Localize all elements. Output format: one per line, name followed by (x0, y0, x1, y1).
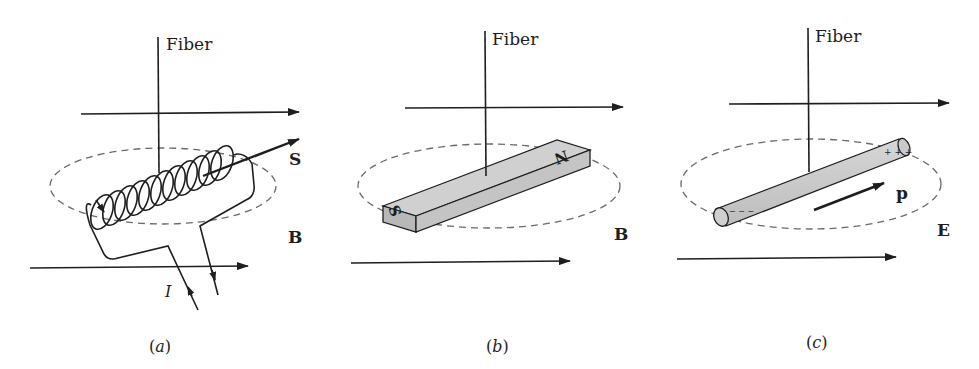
moment-vector-s (203, 139, 299, 176)
solenoid-coil (86, 143, 237, 233)
fiber-line (158, 37, 159, 173)
panel-b: S N Fiber B (b) (351, 29, 628, 356)
fiber-label: Fiber (492, 29, 539, 49)
field-label-b: B (288, 227, 302, 247)
coil-current-arrow (96, 200, 104, 212)
dipole-moment-label-p: p (896, 183, 908, 203)
panel-a: Fiber S B I (a) (30, 34, 302, 356)
fiber-label: Fiber (166, 34, 213, 54)
negative-charges: − − − (729, 207, 754, 216)
field-label-e: E (937, 220, 950, 240)
field-line-arrow (30, 266, 248, 268)
figure-canvas: Fiber S B I (a) S N Fiber B (b) (0, 0, 979, 369)
panel-caption-a: (a) (149, 337, 171, 356)
positive-charges: + + + (884, 147, 912, 157)
field-label-b: B (614, 224, 628, 244)
fiber-line (485, 31, 486, 176)
field-line-arrow (729, 103, 949, 104)
panel-c: + + + − − − Fiber p E (c) (677, 26, 950, 352)
fiber-line (808, 28, 809, 172)
panel-caption-c: (c) (806, 333, 827, 352)
moment-label-s: S (289, 149, 301, 169)
field-line-arrow (677, 257, 896, 259)
field-line-arrow (405, 107, 623, 108)
current-label-i: I (164, 282, 172, 301)
fiber-label: Fiber (815, 26, 862, 46)
panel-caption-b: (b) (486, 337, 509, 356)
field-line-arrow (81, 112, 299, 114)
field-line-arrow (351, 261, 570, 263)
